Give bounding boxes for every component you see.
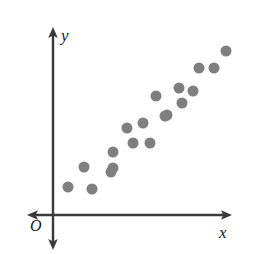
origin-label: O (30, 218, 42, 234)
data-point (138, 118, 149, 129)
x-axis-label: x (219, 224, 227, 241)
data-point (162, 110, 173, 121)
data-point (174, 83, 185, 94)
data-point (87, 184, 98, 195)
data-point (128, 138, 139, 149)
y-axis-label: y (61, 27, 69, 44)
data-point (188, 86, 199, 97)
data-point (145, 138, 156, 149)
data-point (108, 163, 119, 174)
data-point (221, 46, 232, 57)
data-point-group (63, 46, 232, 195)
scatter-plot-figure: y x O (0, 0, 256, 254)
data-point (63, 182, 74, 193)
data-point (194, 63, 205, 74)
x-axis (27, 210, 232, 220)
data-point (151, 91, 162, 102)
data-point (122, 123, 133, 134)
y-axis (48, 27, 58, 250)
data-point (177, 98, 188, 109)
plot-canvas (0, 0, 256, 254)
data-point (79, 162, 90, 173)
data-point (108, 147, 119, 158)
data-point (209, 63, 220, 74)
